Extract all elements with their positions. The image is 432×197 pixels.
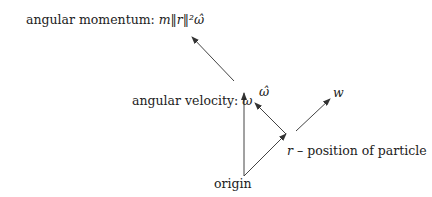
w-arrow: [296, 99, 330, 131]
angular-velocity-text: angular velocity:: [132, 93, 242, 108]
origin-label: origin: [214, 178, 252, 191]
angular-momentum-label: angular momentum: m‖r‖²ω̂: [26, 14, 204, 27]
angular-momentum-text: angular momentum:: [26, 12, 159, 27]
omega-hat-label: ω̂: [259, 86, 269, 99]
angular-velocity-label: angular velocity: ω: [132, 95, 252, 108]
w-symbol: w: [333, 85, 344, 100]
angular-momentum-arrow: [192, 37, 234, 81]
position-label: r – position of particle: [287, 145, 427, 158]
omega-hat-arrow: [255, 103, 286, 134]
position-text: – position of particle: [293, 143, 427, 158]
origin-text: origin: [214, 176, 252, 191]
w-label: w: [333, 87, 344, 100]
angular-velocity-symbol: ω: [242, 93, 252, 108]
omega-hat-symbol: ω̂: [259, 84, 269, 99]
angular-momentum-formula: m‖r‖²ω̂: [159, 12, 205, 27]
position-arrow: [244, 134, 286, 176]
